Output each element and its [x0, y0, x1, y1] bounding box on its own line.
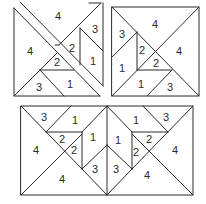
label: 3	[163, 111, 169, 123]
label: 1	[90, 55, 96, 67]
label: 3	[36, 81, 42, 93]
label: 2	[59, 133, 65, 145]
label: 4	[152, 18, 158, 30]
right-lower-edge	[107, 145, 132, 169]
label: 1	[67, 78, 73, 90]
label: 1	[138, 78, 144, 90]
label: 1	[133, 114, 139, 126]
label: 3	[41, 111, 47, 123]
label: 2	[71, 144, 77, 156]
label: 3	[92, 163, 98, 175]
label: 1	[119, 62, 125, 74]
right-bottom-edge	[107, 169, 132, 195]
lower-diag	[40, 70, 64, 96]
label: 2	[69, 42, 75, 54]
label: 2	[54, 56, 60, 68]
label: 1	[72, 114, 78, 126]
right-piece1-edge	[107, 106, 132, 132]
figure-split-square: 4 3 4 2 1 2 3 1	[14, 2, 103, 96]
label: 4	[59, 173, 65, 185]
label: 4	[55, 10, 61, 22]
label: 2	[139, 44, 145, 56]
label: 1	[115, 134, 121, 146]
label: 3	[167, 81, 173, 93]
label: 2	[146, 133, 152, 145]
label: 2	[153, 57, 159, 69]
label: 3	[113, 163, 119, 175]
label: 2	[133, 146, 139, 158]
label: 4	[172, 144, 178, 156]
label: 3	[119, 28, 125, 40]
label: 3	[92, 23, 98, 35]
label: 4	[33, 144, 39, 156]
figure-rectangle: 3 1 1 3 2 1 1 2 4 2 2 4 3 3 4 4	[21, 106, 193, 195]
label: 4	[27, 45, 33, 57]
left-piece1-edge	[82, 106, 107, 132]
tangram-diagram: 4 3 4 2 1 2 3 1 4 3 2 4 2 1 1 3	[0, 0, 206, 204]
figure-square: 4 3 2 4 2 1 1 3	[112, 7, 199, 96]
label: 1	[90, 131, 96, 143]
label: 4	[176, 45, 182, 57]
left-piece3-edge	[46, 106, 71, 132]
label: 4	[144, 169, 150, 181]
right-diag-anti	[132, 134, 193, 195]
